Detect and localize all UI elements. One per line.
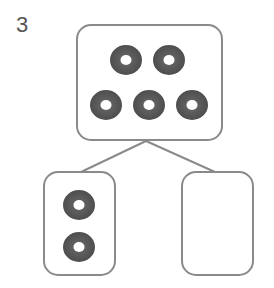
donut-icon [90,90,122,120]
connector-line-left [81,141,146,172]
whole-box [77,25,222,140]
donut-icon [63,232,95,262]
donut-icon [133,90,165,120]
donut-icon [153,45,185,75]
donut-icon [176,90,208,120]
part-box-left [44,172,115,275]
donut-icon [63,190,95,220]
connector-line-right [146,141,215,172]
donut-icon [110,45,142,75]
part-box-right[interactable] [182,172,253,275]
number-bond-diagram [0,0,274,288]
